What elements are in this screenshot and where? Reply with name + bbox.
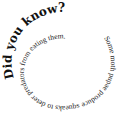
spiral-body: Some moth pupae produce squeaks to deter… — [17, 31, 118, 113]
spiral-text-graphic: Did you know? Some moth pupae produce sq… — [0, 0, 126, 123]
